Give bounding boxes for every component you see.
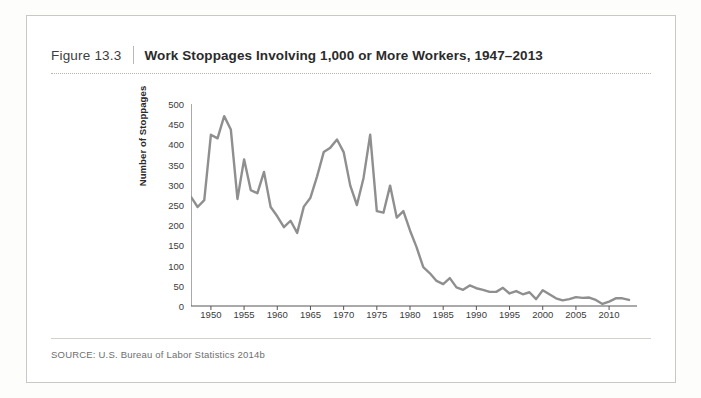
source-note: SOURCE: U.S. Bureau of Labor Statistics … (51, 349, 265, 360)
y-tick-label: 300 (158, 179, 184, 190)
y-tick-label: 100 (158, 260, 184, 271)
footer-rule (51, 338, 651, 339)
data-series-line (191, 116, 629, 304)
y-axis-title: Number of Stoppages (137, 76, 148, 196)
source-text: U.S. Bureau of Labor Statistics 2014b (99, 349, 265, 360)
chart-area: Number of Stoppages 05010015020025030035… (51, 78, 651, 336)
y-tick-label: 200 (158, 220, 184, 231)
y-axis-ticks: 050100150200250300350400450500 (158, 78, 184, 336)
figure-header: Figure 13.3 Work Stoppages Involving 1,0… (51, 40, 651, 70)
source-label: SOURCE: (51, 349, 96, 360)
y-tick-label: 450 (158, 119, 184, 130)
axis-lines (191, 104, 637, 306)
y-tick-label: 350 (158, 159, 184, 170)
chart-svg (191, 104, 643, 312)
figure-title: Work Stoppages Involving 1,000 or More W… (145, 48, 543, 63)
figure-number: Figure 13.3 (51, 48, 122, 63)
line-plot (191, 104, 629, 306)
y-tick-label: 150 (158, 240, 184, 251)
y-tick-label: 400 (158, 139, 184, 150)
figure-card: Figure 13.3 Work Stoppages Involving 1,0… (26, 15, 676, 383)
y-tick-label: 500 (158, 99, 184, 110)
header-divider (133, 46, 134, 64)
y-tick-label: 50 (158, 280, 184, 291)
y-tick-label: 0 (158, 301, 184, 312)
y-tick-label: 250 (158, 200, 184, 211)
header-rule (51, 73, 651, 74)
